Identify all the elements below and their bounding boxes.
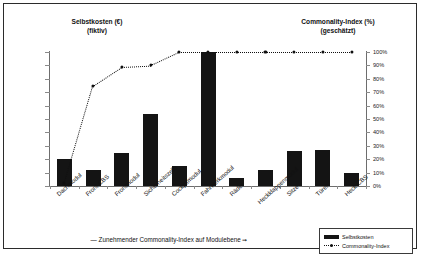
annotation-arrow-icon: ➞ — [242, 236, 247, 243]
right-axis-tick-label: 60% — [373, 103, 384, 109]
x-axis-tick — [222, 186, 223, 189]
x-axis-tick — [309, 186, 310, 189]
line-marker — [293, 50, 296, 53]
right-axis-tick-label: 90% — [373, 62, 384, 68]
line-segment — [265, 52, 294, 53]
x-axis-tick — [79, 186, 80, 189]
right-axis-tick-label: 40% — [373, 129, 384, 135]
dotted-line-swatch-icon — [324, 244, 339, 248]
right-axis-tick — [366, 146, 370, 147]
x-axis-tick — [165, 186, 166, 189]
legend-item-commonality-index: Commonality-Index — [324, 243, 389, 249]
line-marker — [264, 50, 267, 53]
bar-swatch-icon — [324, 235, 339, 239]
x-axis-tick — [251, 186, 252, 189]
left-axis-title: Selbstkosten (€) (fiktiv) — [22, 18, 172, 35]
right-axis-tick — [366, 173, 370, 174]
line-marker — [235, 50, 238, 53]
annotation-dash: — — [91, 236, 97, 243]
figure-caption-blurred — [12, 255, 412, 263]
bar — [315, 150, 330, 186]
line-marker — [92, 84, 95, 87]
line-segment — [208, 52, 237, 53]
right-axis-tick — [366, 65, 370, 66]
right-axis-tick-label: 10% — [373, 170, 384, 176]
right-axis-tick — [366, 52, 370, 53]
right-axis-tick-label: 80% — [373, 76, 384, 82]
x-axis-tick — [107, 186, 108, 189]
right-axis-tick-label: 0% — [373, 183, 381, 189]
chart-legend: Selbstkosten Commonality-Index — [319, 228, 413, 254]
trend-annotation: — Zunehmender Commonality-Index auf Modu… — [34, 236, 304, 243]
line-segment — [150, 52, 179, 66]
chart-frame: Selbstkosten (€) (fiktiv) Commonality-In… — [3, 3, 417, 249]
right-axis-tick — [366, 79, 370, 80]
bar — [201, 52, 216, 186]
right-axis-tick-label: 50% — [373, 116, 384, 122]
x-axis-tick — [366, 186, 367, 189]
bar — [143, 114, 158, 186]
plot-area — [50, 52, 366, 186]
x-axis-tick — [136, 186, 137, 189]
legend-label: Selbstkosten — [342, 234, 374, 240]
line-marker — [178, 50, 181, 53]
right-axis-tick — [366, 159, 370, 160]
line-segment — [179, 52, 208, 53]
legend-item-selbstkosten: Selbstkosten — [324, 234, 374, 240]
line-segment — [237, 52, 266, 53]
line-segment — [122, 65, 151, 67]
right-axis-tick-label: 30% — [373, 143, 384, 149]
bar — [258, 170, 273, 186]
right-axis-tick — [366, 132, 370, 133]
line-marker — [149, 64, 152, 67]
annotation-text: Zunehmender Commonality-Index auf Module… — [99, 236, 241, 243]
right-axis-title: Commonality-Index (%) (geschätzt) — [262, 18, 414, 35]
right-axis-tick-label: 100% — [373, 49, 387, 55]
x-axis-tick — [50, 186, 51, 189]
right-axis-tick-label: 20% — [373, 156, 384, 162]
line-marker — [350, 50, 353, 53]
line-segment — [294, 52, 323, 53]
legend-label: Commonality-Index — [342, 243, 389, 249]
line-segment — [93, 67, 122, 87]
right-axis-tick — [366, 119, 370, 120]
x-axis-tick — [194, 186, 195, 189]
line-segment — [323, 52, 352, 53]
right-axis-tick — [366, 92, 370, 93]
right-axis-tick-label: 70% — [373, 89, 384, 95]
line-marker — [321, 50, 324, 53]
x-axis-tick — [337, 186, 338, 189]
right-axis-tick — [366, 106, 370, 107]
